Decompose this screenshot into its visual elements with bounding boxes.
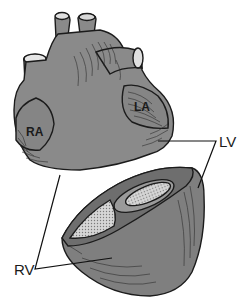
heart-diagram: RA LA LV RV <box>0 0 245 305</box>
sectioned-ventricles <box>62 167 204 296</box>
label-ra: RA <box>26 125 44 139</box>
label-la: LA <box>134 100 150 114</box>
label-rv: RV <box>14 261 35 278</box>
upper-heart <box>14 13 174 171</box>
label-lv: LV <box>219 133 236 150</box>
